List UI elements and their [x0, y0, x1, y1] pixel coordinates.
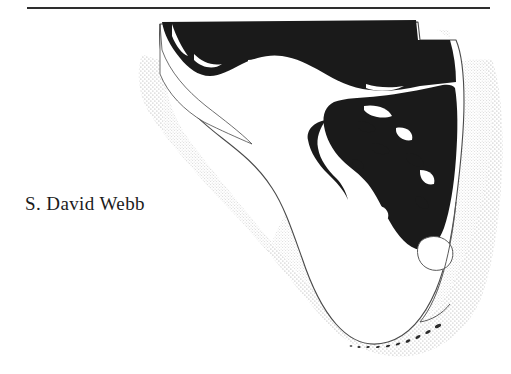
florida-map-figure: [120, 10, 511, 374]
lake-okeechobee: [417, 236, 452, 270]
header-rule: [27, 7, 490, 9]
florida-map-svg: [120, 10, 511, 374]
page-canvas: S. David Webb: [0, 0, 511, 374]
